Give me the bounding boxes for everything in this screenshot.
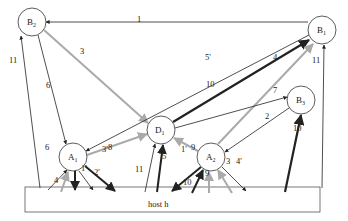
- node-b3: B3: [287, 86, 315, 114]
- edge-label: 7: [273, 85, 277, 95]
- edge-label: 10: [183, 177, 192, 187]
- node-b1: B1: [308, 16, 336, 44]
- edge-label: 11: [9, 55, 17, 65]
- edge-11-d1: [145, 144, 155, 192]
- edge-label: 11: [135, 164, 143, 174]
- edge-7: [175, 97, 287, 128]
- edge-label: 8: [108, 142, 112, 152]
- edge-label: 10: [293, 123, 302, 133]
- edge-3: [44, 30, 148, 123]
- node-a2: A2: [197, 143, 225, 171]
- edge-11-right: [322, 45, 324, 188]
- edge-label: 6: [45, 142, 49, 152]
- edge-11-left: [21, 36, 40, 188]
- edge-label: 9: [205, 168, 209, 178]
- edge-2: [225, 108, 289, 152]
- edge-label: 3': [102, 144, 108, 154]
- edge-label: 6: [46, 80, 50, 90]
- node-b2: B2: [18, 8, 46, 36]
- edge-label: 3: [80, 46, 84, 56]
- network-diagram: B2 B1 D1 B3 A1 A2 host h 1 3 5' 4 11 11 …: [0, 0, 348, 221]
- edge-label: 10: [206, 79, 215, 89]
- edge-label: 1: [137, 14, 141, 24]
- edge-label: 1': [81, 163, 87, 173]
- host-label: host h: [148, 199, 169, 209]
- edge-label: 2': [94, 167, 100, 177]
- edge-label: 5': [205, 52, 211, 62]
- edge-label: 2: [265, 111, 269, 121]
- edge-label: 4: [54, 175, 59, 185]
- edge-6-top: [38, 35, 66, 144]
- edge-label: 9: [191, 142, 195, 152]
- edge-label: 1': [181, 144, 187, 154]
- edge-label: 4': [236, 156, 242, 166]
- edge-label: 11: [312, 55, 320, 65]
- node-d1: D1: [147, 116, 175, 144]
- edge-label: 3: [226, 156, 230, 166]
- edge-label: 4: [273, 52, 278, 62]
- edge-label: 5: [162, 151, 166, 161]
- edge-8: [87, 134, 147, 155]
